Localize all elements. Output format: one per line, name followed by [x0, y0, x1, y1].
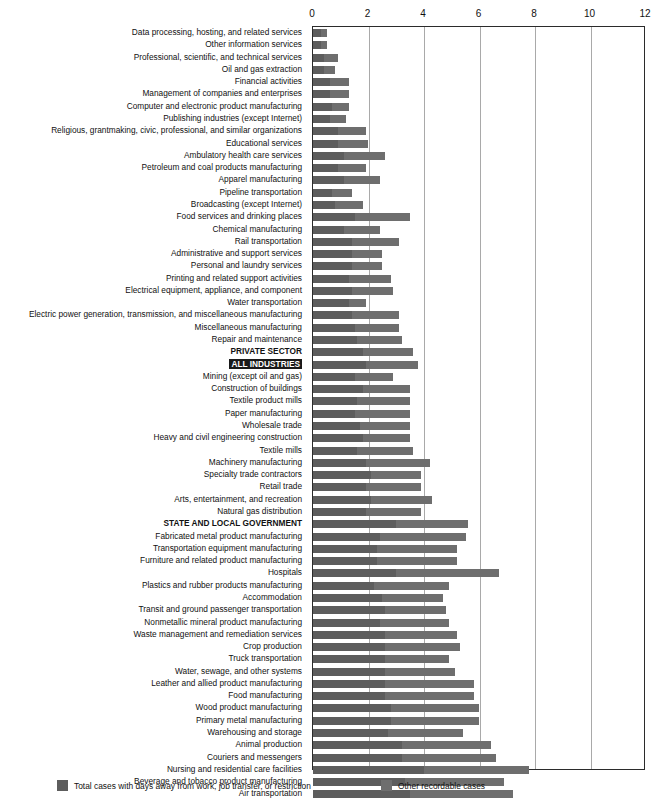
category-label: Pipeline transportation	[0, 186, 306, 198]
bar-segment-other-recordable	[357, 447, 413, 455]
stacked-bar	[313, 717, 480, 725]
stacked-bar	[313, 287, 393, 295]
bar-row	[313, 76, 644, 88]
bar-segment-other-recordable	[391, 717, 480, 725]
bar-row	[313, 764, 644, 776]
category-label: Electric power generation, transmission,…	[0, 308, 306, 320]
category-label-text: Pipeline transportation	[219, 187, 302, 197]
category-label-text: Rail transportation	[235, 236, 302, 246]
bar-segment-total-cases	[313, 103, 332, 111]
bar-segment-other-recordable	[385, 668, 454, 676]
category-label: Printing and related support activities	[0, 272, 306, 284]
category-label-text: Printing and related support activities	[166, 273, 302, 283]
bar-segment-other-recordable	[366, 483, 422, 491]
bar-row	[313, 248, 644, 260]
category-label: Financial activities	[0, 75, 306, 87]
category-label: Rail transportation	[0, 235, 306, 247]
category-label-text: Personal and laundry services	[191, 260, 302, 270]
category-label: Repair and maintenance	[0, 333, 306, 345]
bar-rows	[313, 27, 644, 801]
bar-segment-total-cases	[313, 324, 355, 332]
bar-segment-total-cases	[313, 226, 344, 234]
bar-segment-other-recordable	[330, 78, 349, 86]
category-label-text: Truck transportation	[229, 653, 302, 663]
bar-segment-other-recordable	[321, 41, 327, 49]
bar-segment-total-cases	[313, 569, 396, 577]
legend-label-other-recordable: Other recordable cases	[398, 781, 485, 791]
category-label: Water transportation	[0, 296, 306, 308]
chart-page: 024681012 Data processing, hosting, and …	[0, 0, 658, 804]
bar-segment-total-cases	[313, 496, 371, 504]
bar-segment-other-recordable	[382, 594, 443, 602]
bar-segment-total-cases	[313, 717, 391, 725]
stacked-bar	[313, 582, 449, 590]
bar-segment-total-cases	[313, 127, 338, 135]
category-label-text: STATE AND LOCAL GOVERNMENT	[164, 518, 302, 528]
bar-segment-total-cases	[313, 422, 360, 430]
bar-segment-total-cases	[313, 336, 357, 344]
bar-row	[313, 174, 644, 186]
bar-segment-total-cases	[313, 41, 321, 49]
category-label: Machinery manufacturing	[0, 456, 306, 468]
bar-segment-total-cases	[313, 643, 385, 651]
category-label: Other information services	[0, 38, 306, 50]
stacked-bar	[313, 459, 430, 467]
stacked-bar	[313, 226, 380, 234]
stacked-bar	[313, 483, 421, 491]
category-label: Administrative and support services	[0, 247, 306, 259]
stacked-bar	[313, 631, 457, 639]
stacked-bar	[313, 533, 466, 541]
bar-segment-total-cases	[313, 545, 377, 553]
category-label: Furniture and related product manufactur…	[0, 554, 306, 566]
bar-row	[313, 408, 644, 420]
bar-row	[313, 27, 644, 39]
bar-segment-other-recordable	[357, 336, 401, 344]
category-label-text: Plastics and rubber products manufacturi…	[142, 580, 302, 590]
bar-row	[313, 727, 644, 739]
category-label-text: Religious, grantmaking, civic, professio…	[51, 125, 302, 135]
bar-segment-total-cases	[313, 54, 324, 62]
bar-segment-total-cases	[313, 201, 335, 209]
bar-segment-other-recordable	[396, 520, 468, 528]
stacked-bar	[313, 127, 366, 135]
stacked-bar	[313, 594, 443, 602]
category-label-text: Couriers and messengers	[207, 752, 302, 762]
stacked-bar	[313, 361, 418, 369]
bar-segment-total-cases	[313, 115, 330, 123]
category-label-text: Computer and electronic product manufact…	[127, 101, 302, 111]
bar-segment-total-cases	[313, 655, 385, 663]
bar-segment-total-cases	[313, 729, 388, 737]
category-label-text: Water, sewage, and other systems	[175, 666, 302, 676]
bar-segment-other-recordable	[396, 569, 499, 577]
category-label: STATE AND LOCAL GOVERNMENT	[0, 517, 306, 529]
bar-segment-other-recordable	[377, 545, 457, 553]
bar-segment-other-recordable	[402, 754, 496, 762]
bar-segment-total-cases	[313, 385, 363, 393]
bar-row	[313, 531, 644, 543]
category-label-text: Other information services	[205, 39, 302, 49]
bar-row	[313, 309, 644, 321]
chart-legend: Total cases with days away from work, jo…	[0, 778, 658, 802]
bar-segment-total-cases	[313, 29, 321, 37]
bar-segment-total-cases	[313, 373, 355, 381]
bar-segment-other-recordable	[363, 385, 410, 393]
category-label: Professional, scientific, and technical …	[0, 51, 306, 63]
category-label: Leather and allied product manufacturing	[0, 677, 306, 689]
bar-segment-total-cases	[313, 275, 349, 283]
plot-area	[312, 26, 645, 770]
bar-row	[313, 199, 644, 211]
bar-row	[313, 445, 644, 457]
bar-segment-total-cases	[313, 90, 330, 98]
category-label-text: Financial activities	[235, 76, 302, 86]
x-tick-label-8: 8	[531, 8, 537, 19]
bar-row	[313, 420, 644, 432]
category-label-text: Textile product mills	[230, 395, 302, 405]
bar-segment-total-cases	[313, 66, 324, 74]
category-label: Specialty trade contractors	[0, 468, 306, 480]
category-label: Transit and ground passenger transportat…	[0, 603, 306, 615]
bar-row	[313, 653, 644, 665]
category-label: PRIVATE SECTOR	[0, 345, 306, 357]
bar-row	[313, 383, 644, 395]
category-label: Ambulatory health care services	[0, 149, 306, 161]
bar-segment-total-cases	[313, 140, 338, 148]
